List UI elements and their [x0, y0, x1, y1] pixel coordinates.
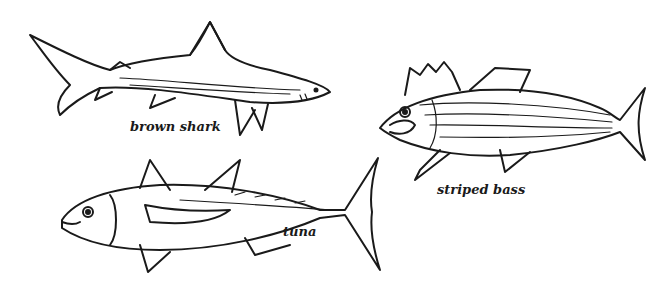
fish-illustration: brown shark striped bass tuna — [0, 0, 655, 302]
brown-shark-label: brown shark — [130, 119, 221, 134]
fish-drawings — [0, 0, 655, 302]
striped-bass-drawing — [380, 62, 645, 180]
tuna-label: tuna — [283, 224, 316, 239]
tuna-drawing — [62, 158, 380, 272]
striped-bass-label: striped bass — [437, 182, 525, 197]
